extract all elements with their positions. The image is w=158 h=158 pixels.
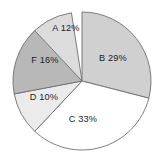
pie-chart-figure: A 12%B 29%C 33%D 10%F 16% (0, 0, 158, 158)
pie-slices-group (13, 12, 151, 150)
pie-chart-canvas: A 12%B 29%C 33%D 10%F 16% (0, 0, 158, 158)
pie-slice-label-c: C 33% (69, 114, 97, 124)
pie-slice-label-d: D 10% (30, 92, 58, 102)
pie-slice-label-f: F 16% (31, 55, 58, 65)
pie-slice-label-b: B 29% (99, 53, 127, 63)
pie-slice-label-a: A 12% (52, 23, 79, 33)
